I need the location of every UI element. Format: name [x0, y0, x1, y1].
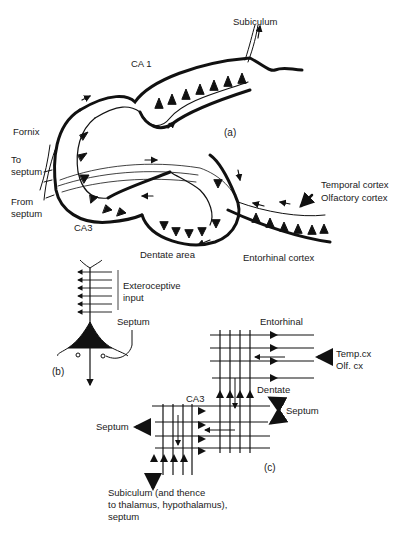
label-output-3: septum: [108, 511, 139, 522]
label-septum-left: Septum: [96, 421, 129, 432]
label-dentate-area: Dentate area: [140, 249, 195, 260]
label-fornix: Fornix: [13, 126, 39, 137]
label-output-1: Subiculum (and thence: [108, 487, 205, 498]
label-to-septum-2: septum: [11, 166, 42, 177]
label-ca1: CA 1: [131, 58, 152, 69]
label-from-septum-1: From: [11, 196, 33, 207]
label-septum-b: Septum: [117, 316, 150, 327]
label-dentate: Dentate: [257, 384, 290, 395]
label-subiculum: Subiculum: [233, 16, 277, 27]
label-output-2: to thalamus, hypothalamus),: [108, 499, 227, 510]
label-entorhinal-cortex: Entorhinal cortex: [243, 252, 314, 263]
label-olf-cx: Olf. cx: [336, 360, 363, 371]
label-ca3-c: CA3: [186, 393, 204, 404]
label-temporal-cortex: Temporal cortex: [321, 179, 389, 190]
label-temp-cx: Temp.cx: [336, 348, 371, 359]
panel-a-label: (a): [224, 127, 236, 138]
label-input: input: [123, 292, 144, 303]
panel-c-label: (c): [264, 462, 276, 473]
label-ca3: CA3: [74, 222, 92, 233]
panel-a-drawing: [40, 25, 330, 245]
label-from-septum-2: septum: [11, 208, 42, 219]
label-exteroceptive: Exteroceptive: [123, 280, 181, 291]
label-entorhinal: Entorhinal: [260, 316, 303, 327]
label-septum-right: Septum: [286, 405, 319, 416]
label-olfactory-cortex: Olfactory cortex: [321, 192, 388, 203]
label-to-septum-1: To: [11, 154, 21, 165]
panel-b-label: (b): [52, 366, 64, 377]
hippocampus-diagram: [0, 0, 416, 542]
